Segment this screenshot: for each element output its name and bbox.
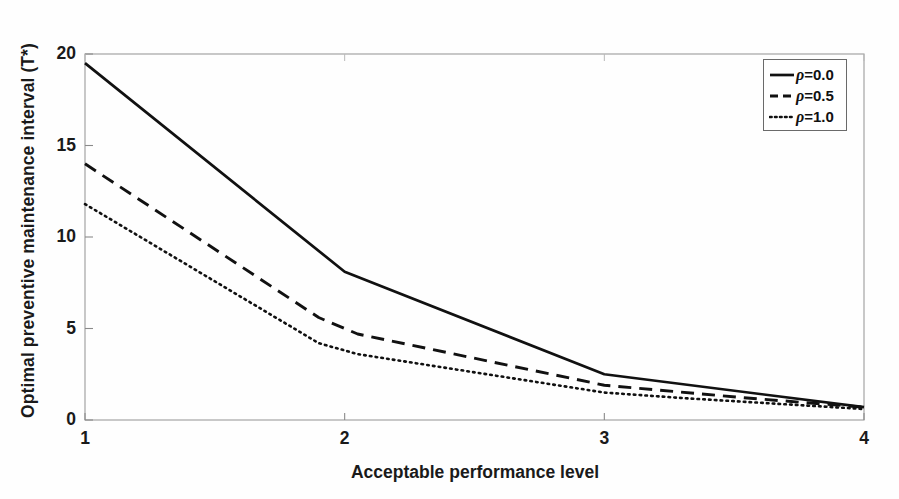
legend-rho-symbol: ρ [796,108,804,125]
series-line-0.0 [85,63,864,407]
legend-label: ρ=1.0 [796,108,834,126]
y-axis-title: Optimal preventive maintenance interval … [18,43,39,418]
legend-label: ρ=0.0 [796,66,834,84]
series-line-1.0 [85,204,864,409]
x-tick-label: 4 [844,428,884,449]
y-tick-label: 15 [42,135,76,156]
chart-figure: Optimal preventive maintenance interval … [0,0,899,499]
legend-item-0.5: ρ=0.5 [764,85,846,106]
y-tick-label: 0 [42,409,76,430]
series-lines [85,63,864,409]
y-tick-label: 5 [42,318,76,339]
x-tick-label: 1 [65,428,105,449]
plot-frame [85,54,864,420]
tick-marks [85,54,864,420]
legend-label: ρ=0.5 [796,87,834,105]
legend-line-sample-dotted [769,111,795,123]
y-tick-label: 20 [42,43,76,64]
legend: ρ=0.0ρ=0.5ρ=1.0 [763,59,847,131]
y-tick-label: 10 [42,226,76,247]
legend-item-0.0: ρ=0.0 [764,64,846,85]
legend-line-sample-solid [769,69,795,81]
legend-item-1.0: ρ=1.0 [764,106,846,127]
series-line-0.5 [85,164,864,407]
legend-rho-symbol: ρ [796,66,804,83]
x-tick-label: 3 [584,428,624,449]
legend-line-sample-dashed [769,90,795,102]
x-tick-label: 2 [325,428,365,449]
x-axis-title: Acceptable performance level [85,462,865,483]
legend-rho-symbol: ρ [796,87,804,104]
